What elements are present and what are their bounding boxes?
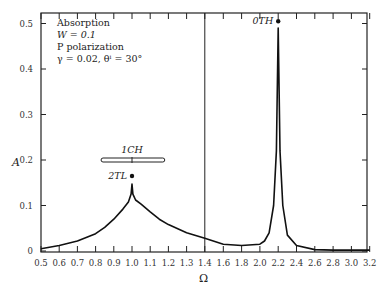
x-tick-label: 1.8 — [235, 258, 249, 268]
y-tick-label: 0 — [28, 246, 33, 256]
y-tick-label: 0.4 — [19, 64, 33, 74]
y-tick-label: 0.1 — [19, 201, 33, 211]
x-tick-label: 3.2 — [363, 258, 377, 268]
x-tick-label: 0.5 — [34, 258, 48, 268]
range-bar — [101, 158, 165, 162]
peak-marker-icon — [276, 19, 280, 23]
peak-marker-icon — [130, 174, 134, 178]
peak-label: 2TL — [107, 170, 127, 181]
range-label: 1CH — [121, 144, 143, 155]
x-tick-label: 1.0 — [125, 258, 139, 268]
x-tick-label: 0.6 — [52, 258, 66, 268]
y-axis-label: A — [11, 156, 20, 169]
x-axis-label: Ω — [199, 272, 208, 285]
x-tick-label: 1.3 — [180, 258, 194, 268]
x-tick-label: 2.4 — [290, 258, 304, 268]
x-tick-label: 1.2 — [162, 258, 176, 268]
y-tick-label: 0.2 — [19, 155, 33, 165]
x-tick-label: 0.8 — [89, 258, 103, 268]
chart-legend: Absorption W = 0.1 P polarization γ = 0.… — [57, 17, 142, 65]
peak-label: 0TH — [253, 15, 274, 26]
legend-line-3: P polarization — [57, 41, 142, 53]
x-tick-label: 2.8 — [326, 258, 340, 268]
x-tick-label: 2.0 — [253, 258, 267, 268]
x-tick-label: 1.6 — [217, 258, 231, 268]
x-tick-label: 1.4 — [198, 258, 212, 268]
x-tick-label: 3.0 — [345, 258, 359, 268]
legend-line-4: γ = 0.02, θⁱ = 30° — [57, 53, 142, 65]
x-tick-label: 2.2 — [271, 258, 285, 268]
x-tick-label: 1.1 — [143, 258, 157, 268]
legend-line-1: Absorption — [57, 17, 142, 29]
x-tick-label: 0.9 — [107, 258, 121, 268]
legend-line-2: W = 0.1 — [57, 29, 142, 41]
y-tick-label: 0.3 — [19, 110, 33, 120]
y-tick-label: 0.5 — [19, 19, 33, 29]
x-tick-label: 0.7 — [71, 258, 85, 268]
x-tick-label: 2.6 — [308, 258, 322, 268]
